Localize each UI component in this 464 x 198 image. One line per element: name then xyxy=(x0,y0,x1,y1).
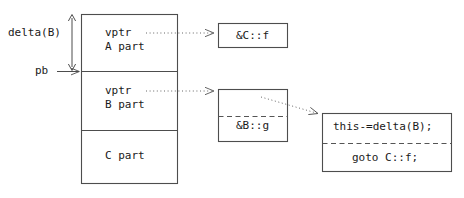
vtable-entry-b-g-box xyxy=(219,90,288,142)
thunk-line-2: goto C::f; xyxy=(352,152,418,164)
pb-label: pb xyxy=(35,65,48,77)
thunk-pointer-arrow xyxy=(261,97,318,114)
b-part-vptr-label: vptr xyxy=(105,85,132,97)
thunk-line-1: this-=delta(B); xyxy=(333,121,432,133)
a-part-vptr-label: vptr xyxy=(105,27,132,39)
c-part-label: C part xyxy=(105,150,145,162)
diagram-vector-layer xyxy=(0,0,464,198)
vtable-layout-diagram: delta(B) pb vptr A part vptr B part C pa… xyxy=(0,0,464,198)
delta-span-arrow xyxy=(68,15,75,71)
delta-label: delta(B) xyxy=(8,27,61,39)
b-part-label: B part xyxy=(105,99,145,111)
vtable-entry-b-g-label: &B::g xyxy=(236,120,269,132)
a-part-label: A part xyxy=(105,41,145,53)
vtable-entry-c-f-label: &C::f xyxy=(236,30,269,42)
